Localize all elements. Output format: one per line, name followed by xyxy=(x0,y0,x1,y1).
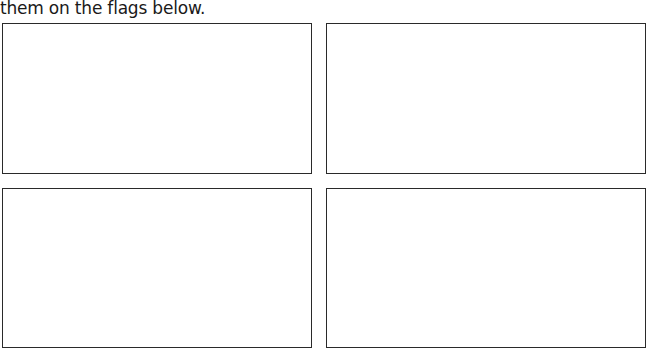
flag-drawing-box-bottom-right[interactable] xyxy=(326,188,646,348)
instruction-text: them on the flags below. xyxy=(0,0,205,19)
flag-drawing-box-top-left[interactable] xyxy=(2,23,312,174)
flag-drawing-box-bottom-left[interactable] xyxy=(2,188,312,348)
flag-drawing-box-top-right[interactable] xyxy=(326,23,646,174)
